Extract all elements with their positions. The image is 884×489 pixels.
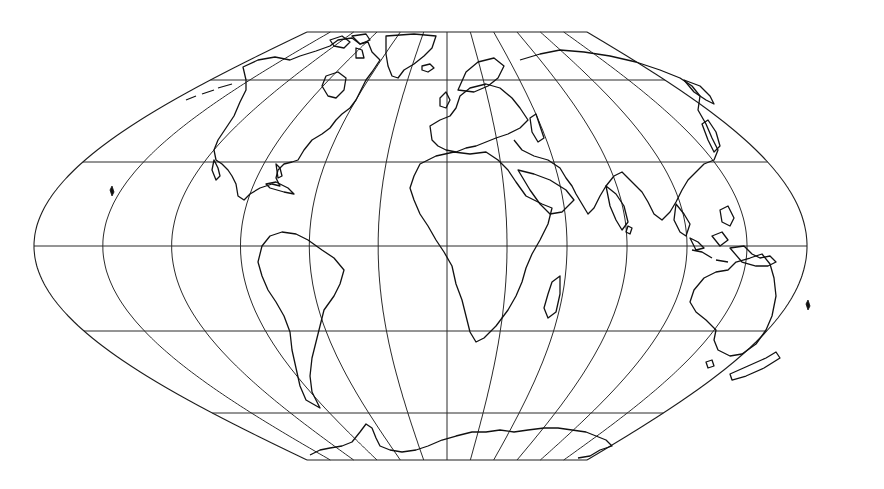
sri-lanka [626, 226, 632, 234]
arctic-archipelago [330, 34, 370, 58]
antarctica-coast [310, 424, 612, 458]
north-america-coast [214, 38, 380, 200]
new-zealand [730, 352, 780, 380]
philippines [720, 206, 734, 226]
world-map [0, 0, 884, 489]
graticule [34, 32, 807, 460]
australia-coast [690, 254, 776, 356]
aleutian-islands [186, 84, 232, 100]
tasmania [706, 360, 714, 368]
pacific-island-east [806, 300, 810, 310]
madagascar [544, 276, 560, 318]
cuba [266, 182, 294, 194]
pacific-island-west [110, 186, 114, 196]
baja-california [212, 160, 220, 180]
british-isles [440, 92, 450, 108]
india-peninsula [606, 186, 628, 230]
hudson-bay [322, 72, 346, 98]
indonesia [690, 232, 776, 266]
iceland [422, 64, 434, 72]
africa-coast [410, 152, 552, 342]
